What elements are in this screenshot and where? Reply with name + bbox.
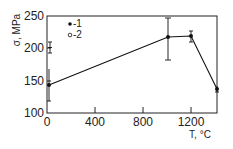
y-tick-label: 200 (24, 41, 44, 55)
x-axis-label: T, °C (189, 129, 211, 140)
y-tick-label: 100 (24, 106, 44, 120)
y-axis-label: σ, MPa (11, 13, 22, 46)
legend: -1 -2 (68, 18, 82, 40)
x-tick-label: 0 (44, 115, 51, 129)
x-tick-label: 800 (133, 115, 153, 129)
y-tick-label: 150 (24, 74, 44, 88)
y-tick-label: 250 (24, 9, 44, 23)
series-1-points (47, 34, 219, 91)
legend-label: -1 (73, 18, 82, 29)
series-2-error-bar (48, 42, 52, 53)
chart: 0 400 800 1200 100 150 200 250 T, °C σ, … (0, 0, 233, 149)
x-ticks (95, 107, 191, 113)
x-tick-label: 400 (85, 115, 105, 129)
x-tick-label: 1200 (178, 115, 205, 129)
series-1-line (49, 36, 217, 89)
legend-label: -2 (73, 29, 82, 40)
legend-marker-filled-icon (68, 22, 72, 26)
legend-marker-open-icon (68, 33, 72, 37)
